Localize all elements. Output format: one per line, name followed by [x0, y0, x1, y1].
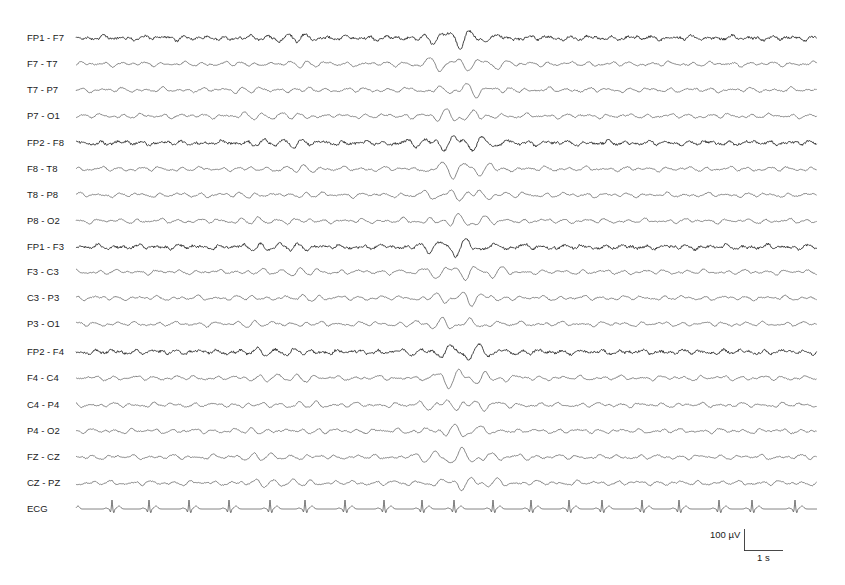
eeg-trace: [76, 162, 817, 179]
eeg-trace: [76, 344, 817, 360]
channel-label: P3 - O1: [27, 318, 60, 330]
channel-label: P7 - O1: [27, 110, 60, 122]
eeg-trace: [76, 136, 817, 152]
channel-label: T7 - P7: [27, 84, 58, 96]
eeg-trace: [76, 477, 817, 490]
eeg-trace: [76, 317, 817, 329]
eeg-trace: [76, 83, 817, 98]
eeg-trace: [76, 30, 817, 49]
eeg-trace: [76, 109, 817, 122]
eeg-trace: [76, 292, 817, 307]
eeg-trace: [76, 213, 817, 226]
scale-bar-amplitude-label: 100 µV: [710, 529, 740, 540]
eeg-trace: [76, 400, 817, 412]
channel-label: F4 - C4: [27, 372, 59, 384]
eeg-trace: [76, 424, 817, 437]
channel-label: C4 - P4: [27, 399, 59, 411]
channel-label: ECG: [27, 503, 48, 515]
eeg-trace: [76, 447, 817, 462]
channel-label: T8 - P8: [27, 189, 58, 201]
eeg-trace: [76, 239, 817, 258]
channel-label: FZ - CZ: [27, 451, 60, 463]
channel-label: F7 - T7: [27, 58, 57, 70]
eeg-trace: [76, 190, 817, 201]
channel-label: FP2 - F8: [27, 137, 64, 149]
channel-label: P4 - O2: [27, 425, 60, 437]
channel-label: FP1 - F7: [27, 32, 64, 44]
channel-label: CZ - PZ: [27, 477, 60, 489]
channel-label: C3 - P3: [27, 292, 59, 304]
eeg-trace: [76, 369, 817, 389]
scale-bar-time-label: 1 s: [757, 552, 770, 563]
ecg-trace: [76, 500, 817, 513]
eeg-trace: [76, 266, 817, 280]
channel-label: FP2 - F4: [27, 346, 64, 358]
channel-label: F8 - T8: [27, 163, 57, 175]
channel-label: F3 - C3: [27, 266, 59, 278]
eeg-trace: [76, 58, 817, 72]
channel-label: P8 - O2: [27, 215, 60, 227]
channel-label: FP1 - F3: [27, 241, 64, 253]
eeg-traces: [0, 0, 845, 585]
